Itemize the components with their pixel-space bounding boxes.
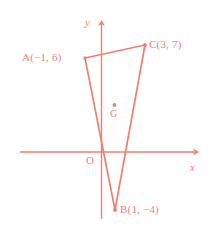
x-axis-label: x — [190, 162, 195, 173]
centroid-label-g: G — [110, 109, 117, 119]
centroid-g-dot — [113, 103, 117, 107]
origin-label: O — [86, 155, 94, 166]
vertex-label-a: A(−1, 6) — [22, 52, 62, 63]
vertex-a-dot — [83, 56, 86, 59]
y-axis-label: y — [85, 17, 90, 28]
vertex-label-b: B(1, −4) — [120, 204, 159, 215]
vertex-c-dot — [143, 43, 147, 47]
vertex-label-c: C(3, 7) — [149, 39, 182, 50]
coordinate-geometry-figure: y x O A(−1, 6) C(3, 7) B(1, −4) G — [0, 0, 214, 250]
triangle-abc — [85, 45, 145, 210]
vertex-b-dot — [113, 208, 117, 212]
